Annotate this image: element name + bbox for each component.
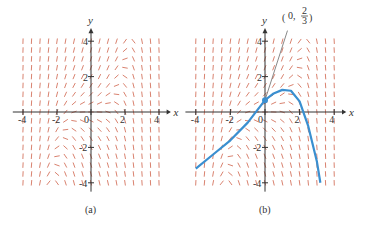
initial-point-marker [262,97,268,103]
y-tick-label: 2 [257,72,262,83]
x-axis-label: x [172,106,178,118]
panel-a: xy-4-202442-2-4(a) [13,14,179,217]
y-tick-label: 4 [257,36,262,47]
x-tick-label: 0 [258,114,263,125]
y-tick-label: 4 [83,36,88,47]
panel-b: xy-4-202442-2-4(b)(0,23) [185,5,353,216]
x-tick-label: 4 [154,114,159,125]
x-tick-label: -4 [191,114,199,125]
panel-caption: (a) [85,204,96,216]
y-tick-label: 2 [83,72,88,83]
x-tick-label: 2 [120,114,125,125]
y-tick-label: -4 [253,178,261,189]
y-tick-label: -2 [79,142,87,153]
y-axis-label: y [87,14,93,26]
svg-text:3: 3 [302,15,307,26]
x-tick-label: -2 [225,114,233,125]
svg-text:(: ( [282,12,286,24]
x-tick-label: 0 [84,114,89,125]
x-tick-label: 2 [295,114,300,125]
slope-field-figure: xy-4-202442-2-4(a)xy-4-202442-2-4(b)(0,2… [0,0,369,225]
svg-text:): ) [309,12,312,24]
x-tick-label: -4 [18,114,26,125]
panel-caption: (b) [259,204,271,216]
svg-text:0,: 0, [288,10,296,21]
y-tick-label: -4 [79,178,87,189]
axes: xy-4-202442-2-4 [185,14,353,192]
axes: xy-4-202442-2-4 [13,14,179,192]
x-axis-label: x [348,106,354,118]
x-tick-label: -2 [52,114,60,125]
initial-point-label: (0,23) [282,5,312,26]
x-tick-label: 4 [329,114,334,125]
solution-curve [196,90,321,183]
y-tick-label: -2 [253,142,261,153]
y-axis-label: y [261,14,267,26]
